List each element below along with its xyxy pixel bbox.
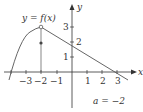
- function-graph: y = f(x) y x −3 −2 −1 1 2 3 1 2 3 a = −2: [0, 0, 143, 112]
- open-point: [39, 25, 43, 29]
- y-axis-label: y: [76, 2, 83, 12]
- y-tick-label: 3: [63, 22, 69, 32]
- x-tick-label: 3: [115, 76, 121, 86]
- filled-point: [39, 41, 42, 44]
- function-label: y = f(x): [21, 13, 56, 23]
- y-axis-arrow-icon: [70, 4, 75, 10]
- x-tick-label: −2: [34, 76, 47, 86]
- y-tick-label: 2: [76, 37, 82, 47]
- y-tick-label: 1: [63, 52, 69, 62]
- x-axis-label: x: [138, 67, 143, 77]
- x-tick-label: 2: [100, 76, 106, 86]
- x-tick-label: −1: [50, 76, 63, 86]
- x-tick-label: 1: [85, 76, 91, 86]
- x-tick-label: −3: [19, 76, 33, 86]
- x-axis-arrow-icon: [131, 70, 137, 75]
- a-value-annotation: a = −2: [93, 96, 125, 106]
